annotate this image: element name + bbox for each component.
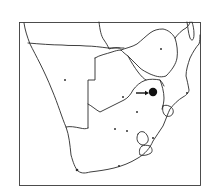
coast-marker-durban xyxy=(152,137,154,139)
city-dot-harare xyxy=(160,48,162,50)
city-dot-windhoek xyxy=(64,79,66,81)
city-dot-bloemfontein xyxy=(126,130,128,132)
coast-marker-cape xyxy=(76,169,79,172)
highlight-location-marker xyxy=(149,88,157,96)
map-svg xyxy=(0,0,214,192)
city-dot-kimberley xyxy=(114,128,116,130)
map-figure xyxy=(0,0,214,192)
coast-marker-pe xyxy=(118,165,120,167)
coast-marker-maputo xyxy=(186,92,188,94)
city-dot-gaborone xyxy=(122,96,124,98)
city-dot-johannesburg xyxy=(136,111,138,113)
